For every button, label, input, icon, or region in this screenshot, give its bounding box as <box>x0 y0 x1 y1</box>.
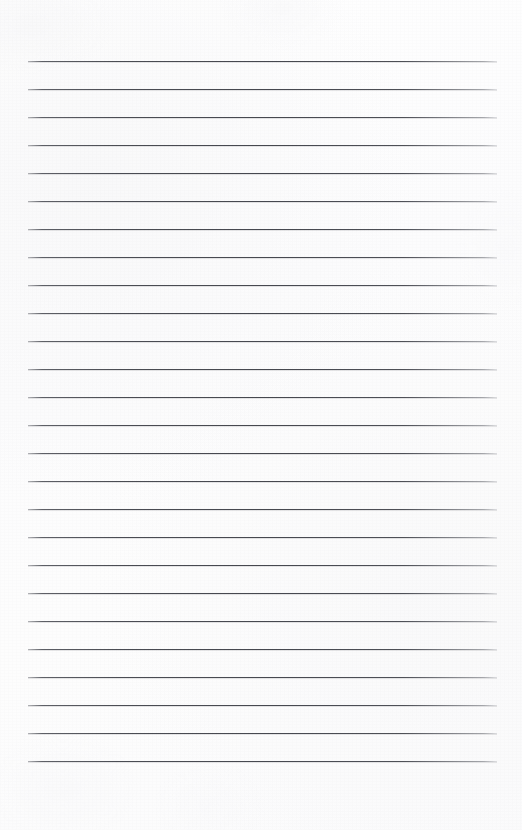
ruled-line <box>28 173 497 174</box>
ruled-line <box>28 565 497 566</box>
ruled-line <box>28 481 497 482</box>
ruled-line <box>28 201 497 202</box>
ruled-line <box>28 369 497 370</box>
ruled-line <box>28 705 497 706</box>
ruled-line <box>28 397 497 398</box>
ruled-line <box>28 257 497 258</box>
ruled-line <box>28 341 497 342</box>
ruled-line <box>28 761 497 762</box>
ruled-line <box>28 145 497 146</box>
ruled-line <box>28 677 497 678</box>
ruled-line <box>28 509 497 510</box>
ruled-line <box>28 537 497 538</box>
ruled-line <box>28 89 497 90</box>
lined-paper-page <box>0 0 522 830</box>
ruled-lines-group <box>0 0 522 830</box>
ruled-line <box>28 285 497 286</box>
ruled-line <box>28 593 497 594</box>
ruled-line <box>28 117 497 118</box>
ruled-line <box>28 621 497 622</box>
ruled-line <box>28 61 497 62</box>
ruled-line <box>28 453 497 454</box>
ruled-line <box>28 229 497 230</box>
ruled-line <box>28 313 497 314</box>
ruled-line <box>28 425 497 426</box>
ruled-line <box>28 649 497 650</box>
ruled-line <box>28 733 497 734</box>
